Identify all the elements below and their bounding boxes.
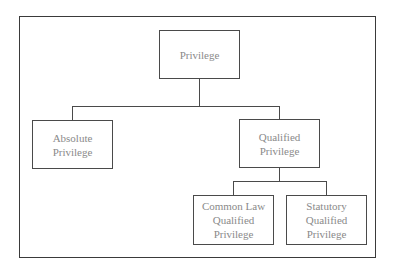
- node-absolute-privilege-label: Absolute Privilege: [53, 131, 93, 159]
- node-common-law-label: Common Law Qualified Privilege: [202, 199, 265, 241]
- node-statutory-label: Statutory Qualified Privilege: [306, 199, 348, 241]
- node-absolute-privilege: Absolute Privilege: [32, 120, 113, 169]
- connector-level1-horizontal: [72, 106, 280, 107]
- node-qualified-privilege-label: Qualified Privilege: [259, 130, 301, 158]
- connector-qualified-down: [279, 167, 280, 181]
- node-statutory-qualified-privilege: Statutory Qualified Privilege: [286, 195, 367, 245]
- connector-to-qualified: [279, 106, 280, 119]
- connector-level2-horizontal: [233, 181, 327, 182]
- node-qualified-privilege: Qualified Privilege: [239, 119, 320, 168]
- node-privilege: Privilege: [159, 30, 240, 79]
- connector-to-absolute: [72, 106, 73, 120]
- connector-root-down: [199, 78, 200, 106]
- node-privilege-label: Privilege: [180, 48, 220, 62]
- connector-to-common-law: [233, 181, 234, 195]
- node-common-law-qualified-privilege: Common Law Qualified Privilege: [193, 195, 274, 245]
- connector-to-statutory: [326, 181, 327, 195]
